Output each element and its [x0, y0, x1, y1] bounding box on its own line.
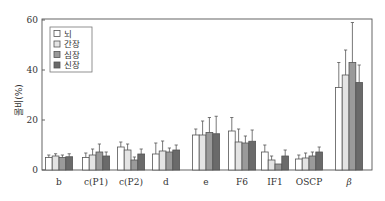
bar — [206, 133, 213, 171]
bar — [335, 88, 342, 171]
bar — [309, 156, 316, 170]
bar-group-IF1 — [261, 145, 288, 170]
bar — [192, 135, 199, 170]
bar-group-F6 — [228, 118, 255, 171]
bar — [166, 152, 173, 170]
legend-label: 간장 — [64, 39, 80, 49]
bar — [82, 158, 89, 171]
bar — [268, 160, 275, 170]
bar — [173, 150, 180, 170]
bar — [342, 75, 349, 170]
y-tick-label: 0 — [32, 165, 38, 175]
y-tick-label: 40 — [27, 65, 39, 75]
x-category-label: b — [56, 177, 62, 187]
bar — [124, 150, 131, 170]
bar — [295, 159, 302, 170]
bar — [199, 135, 206, 170]
bar — [152, 154, 159, 170]
bar — [96, 152, 103, 170]
y-axis-label: 몰비(%) — [14, 84, 24, 116]
bar — [89, 155, 96, 170]
bar — [316, 152, 323, 170]
y-tick-label: 60 — [27, 15, 39, 25]
x-category-label: e — [203, 177, 208, 187]
bar — [117, 147, 124, 170]
bar — [66, 157, 73, 170]
legend-swatch — [54, 52, 60, 58]
bar — [275, 164, 282, 170]
bar — [103, 156, 110, 170]
bar — [45, 158, 52, 171]
bar — [159, 151, 166, 170]
bar — [356, 83, 363, 171]
x-category-label: F6 — [236, 177, 248, 187]
bar — [235, 142, 242, 170]
bar-groups — [45, 23, 362, 171]
bar — [131, 160, 138, 170]
bar-group-c(P2) — [117, 142, 144, 170]
legend-swatch — [54, 31, 60, 37]
bar — [52, 156, 59, 170]
bar — [59, 158, 66, 171]
legend-label: 신장 — [64, 60, 80, 70]
bar — [213, 134, 220, 170]
bar — [242, 143, 249, 170]
x-category-label: β — [345, 177, 351, 187]
x-category-label: c(P1) — [84, 177, 108, 187]
legend-swatch — [54, 62, 60, 68]
bar-group-c(P1) — [82, 144, 109, 170]
x-category-label: c(P2) — [119, 177, 143, 187]
bar-group-d — [152, 141, 179, 170]
y-tick-label: 20 — [27, 115, 39, 125]
legend-label: 심장 — [64, 50, 80, 60]
bar — [261, 152, 268, 170]
x-category-label: IF1 — [267, 177, 283, 187]
bar-chart: 0204060 bc(P1)c(P2)deF6IF1OSCPβ 뇌간장심장신장 … — [0, 0, 385, 201]
legend-label: 뇌 — [64, 29, 72, 39]
bar — [228, 131, 235, 170]
bar-group-b — [45, 154, 72, 170]
bar — [249, 141, 256, 170]
x-category-label: d — [163, 177, 169, 187]
legend-swatch — [54, 41, 60, 47]
bar — [349, 63, 356, 171]
bar — [138, 154, 145, 170]
bar-group-OSCP — [295, 147, 322, 170]
legend: 뇌간장심장신장 — [50, 27, 92, 72]
x-axis: bc(P1)c(P2)deF6IF1OSCPβ — [56, 177, 351, 187]
bar — [302, 158, 309, 170]
bar-group-β — [335, 23, 362, 171]
x-category-label: OSCP — [296, 177, 323, 187]
bar — [282, 156, 289, 170]
bar-group-e — [192, 116, 219, 170]
